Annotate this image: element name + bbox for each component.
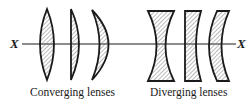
lens-diagram: X X Converging lenses Diverging lenses: [0, 0, 249, 106]
convex-meniscus-lens: [92, 10, 109, 80]
biconcave-lens: [148, 11, 174, 81]
axis-label-right: X: [237, 36, 246, 52]
plano-convex-lens: [71, 9, 79, 80]
diverging-caption: Diverging lenses: [150, 86, 227, 98]
axis-label-left: X: [10, 36, 19, 52]
biconvex-lens: [40, 9, 54, 80]
converging-caption: Converging lenses: [30, 86, 115, 98]
plano-concave-lens: [185, 11, 201, 81]
concave-meniscus-lens: [209, 11, 229, 81]
